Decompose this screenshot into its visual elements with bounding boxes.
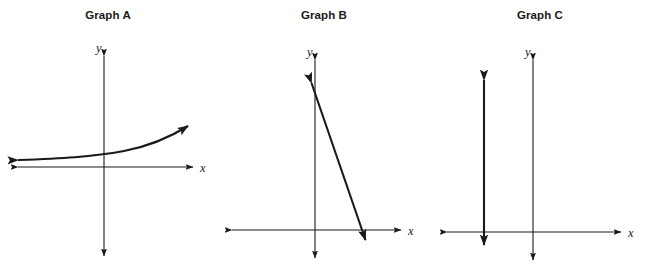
- graph-b-plot: x y: [216, 0, 432, 280]
- graph-c-y-axis-label: y: [523, 45, 531, 59]
- graph-panel-c: Graph C x y: [432, 0, 648, 280]
- graph-b-x-axis-label: x: [407, 224, 414, 238]
- graph-panel-b: Graph B x y: [216, 0, 432, 280]
- graph-a-x-axis-label: x: [199, 161, 206, 175]
- graph-panel-a: Graph A x y: [0, 0, 216, 280]
- graphs-figure: Graph A x y Graph B: [0, 0, 650, 280]
- graph-a-y-axis-label: y: [94, 41, 102, 55]
- graph-b-y-axis-label: y: [305, 45, 313, 59]
- graph-b-line: [312, 83, 366, 240]
- graph-a-plot: x y: [0, 0, 216, 280]
- graph-c-x-axis-label: x: [627, 226, 634, 240]
- graph-a-curve: [18, 126, 188, 160]
- graph-c-plot: x y: [432, 0, 648, 280]
